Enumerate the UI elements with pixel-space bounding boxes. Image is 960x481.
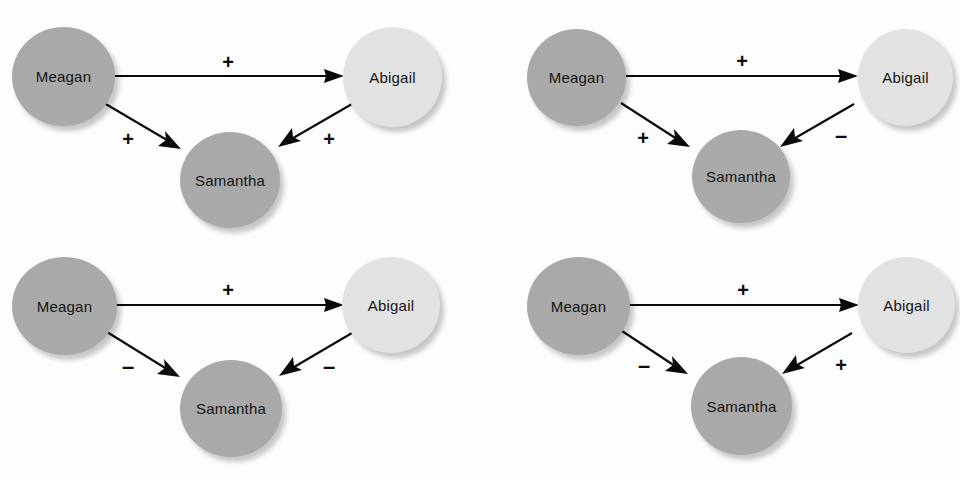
node-abigail[interactable]: Abigail (342, 257, 440, 353)
node-samantha[interactable]: Samantha (692, 130, 790, 223)
node-abigail-label: Abigail (369, 69, 415, 86)
edge-meagan-samantha-arrowhead (667, 129, 690, 147)
node-samantha[interactable]: Samantha (180, 360, 282, 457)
edge-sign-abigail-samantha: – (323, 356, 335, 378)
node-abigail-label: Abigail (882, 69, 928, 86)
edge-sign-abigail-samantha: – (835, 125, 847, 147)
node-abigail[interactable]: Abigail (858, 29, 953, 126)
panel-bottom-left: Meagan Abigail Samantha + – – (0, 240, 480, 480)
edge-sign-meagan-abigail: + (736, 51, 748, 71)
node-meagan-label: Meagan (37, 298, 92, 315)
edge-abigail-samantha-arrowhead (279, 357, 302, 376)
edge-abigail-samantha-arrowhead (782, 355, 805, 374)
node-meagan[interactable]: Meagan (527, 29, 626, 126)
edge-sign-meagan-samantha: – (638, 355, 650, 377)
node-samantha-label: Samantha (706, 168, 776, 185)
edge-abigail-samantha-arrowhead (780, 128, 803, 147)
edge-meagan-samantha-arrowhead (158, 131, 181, 149)
node-abigail[interactable]: Abigail (858, 257, 955, 353)
figure-canvas: Meagan Abigail Samantha + + + Meagan Abi… (0, 0, 960, 481)
edge-meagan-abigail-arrowhead (324, 298, 344, 312)
edge-abigail-samantha-line (288, 104, 352, 141)
edge-abigail-samantha-line (289, 333, 352, 370)
edge-meagan-samantha-line (107, 332, 170, 371)
node-abigail[interactable]: Abigail (343, 27, 442, 127)
edge-meagan-samantha-arrowhead (665, 356, 688, 374)
edge-meagan-samantha-line (621, 103, 680, 141)
panel-top-right: Meagan Abigail Samantha + + – (480, 0, 960, 240)
node-meagan-label: Meagan (36, 68, 91, 85)
node-meagan-label: Meagan (549, 69, 604, 86)
edge-sign-meagan-samantha: – (122, 356, 134, 378)
edge-sign-meagan-abigail: + (737, 280, 749, 300)
edge-sign-meagan-samantha: + (122, 129, 134, 149)
edge-meagan-abigail-arrowhead (324, 69, 344, 83)
node-samantha-label: Samantha (196, 400, 266, 417)
node-abigail-label: Abigail (883, 297, 929, 314)
node-abigail-label: Abigail (368, 297, 414, 314)
edge-meagan-abigail-arrowhead (838, 69, 858, 83)
edge-sign-meagan-samantha: + (637, 128, 649, 148)
panel-bottom-right: Meagan Abigail Samantha + – + (480, 240, 960, 480)
edge-sign-abigail-samantha: + (323, 129, 335, 149)
node-samantha[interactable]: Samantha (691, 357, 792, 455)
node-meagan-label: Meagan (551, 298, 606, 315)
node-meagan[interactable]: Meagan (12, 257, 117, 355)
edge-meagan-samantha-line (104, 103, 172, 143)
node-meagan[interactable]: Meagan (12, 27, 115, 126)
edge-sign-abigail-samantha: + (835, 355, 847, 375)
edge-sign-meagan-abigail: + (222, 52, 234, 72)
edge-sign-meagan-abigail: + (222, 280, 234, 300)
node-meagan[interactable]: Meagan (527, 257, 630, 355)
panel-top-left: Meagan Abigail Samantha + + + (0, 0, 480, 240)
node-samantha-label: Samantha (195, 172, 265, 189)
node-samantha-label: Samantha (707, 398, 777, 415)
edge-abigail-samantha-arrowhead (278, 128, 301, 147)
edge-meagan-samantha-arrowhead (157, 359, 180, 377)
node-samantha[interactable]: Samantha (180, 132, 280, 228)
edge-meagan-abigail-arrowhead (839, 298, 859, 312)
